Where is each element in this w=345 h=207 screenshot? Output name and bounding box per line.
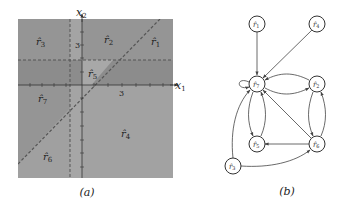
edge-r4-r7 <box>263 30 312 78</box>
edge-r5-r7 <box>261 92 266 136</box>
node-r2: r̂2 <box>309 76 325 92</box>
svg-text:r̂5: r̂5 <box>253 141 260 149</box>
caption-b: (b) <box>279 185 295 198</box>
x2-axis-label: x2 <box>76 6 87 20</box>
figure: x1 x2 3 3 r̂3 r̂2 r̂1 r̂5 r̂7 r̂4 r̂6 (a… <box>0 0 345 207</box>
edge-r2-r7 <box>265 74 309 80</box>
x1-tick-label: 3 <box>119 89 124 98</box>
svg-text:r̂6: r̂6 <box>313 141 320 149</box>
svg-text:r̂2: r̂2 <box>313 81 320 89</box>
region-r4-fill <box>82 85 173 178</box>
edge-r7-r5 <box>249 92 254 136</box>
caption-a: (a) <box>79 186 94 199</box>
edge-r3-r6 <box>241 150 310 166</box>
node-r4: r̂4 <box>309 16 325 32</box>
edge-r3-r7 <box>232 90 250 158</box>
x1-axis-label: x1 <box>175 79 186 93</box>
x2-tick-label: 3 <box>75 41 80 50</box>
edge-r7-r2 <box>265 88 309 94</box>
edge-r2-r6 <box>309 92 314 136</box>
edge-r6-r2 <box>321 92 326 136</box>
edge-r7-self-loop <box>239 81 249 88</box>
node-r7: r̂7 <box>249 76 265 92</box>
svg-text:r̂4: r̂4 <box>313 21 320 29</box>
svg-text:r̂3: r̂3 <box>229 163 236 171</box>
node-r6: r̂6 <box>309 136 325 152</box>
node-r1: r̂1 <box>249 16 265 32</box>
node-r5: r̂5 <box>249 136 265 152</box>
svg-text:r̂1: r̂1 <box>253 21 260 29</box>
node-r3: r̂3 <box>225 158 241 174</box>
svg-text:r̂7: r̂7 <box>253 81 260 89</box>
edge-r6-r7 <box>263 90 311 138</box>
